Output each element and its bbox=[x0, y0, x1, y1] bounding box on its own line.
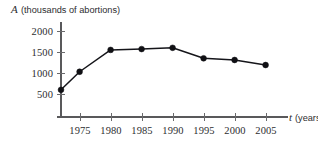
x-tick-label-2005: 2005 bbox=[255, 125, 276, 136]
data-series-markers bbox=[58, 45, 268, 93]
x-tick-label-1995: 1995 bbox=[193, 125, 214, 136]
data-point-1975 bbox=[77, 69, 83, 75]
y-axis-label-variable: A bbox=[10, 3, 18, 15]
data-point-2000 bbox=[232, 57, 238, 63]
y-tick-label-500: 500 bbox=[37, 89, 53, 100]
x-tick-label-2000: 2000 bbox=[224, 125, 245, 136]
data-series-line bbox=[61, 48, 266, 90]
data-point-1990 bbox=[170, 45, 176, 51]
x-axis-label-units: (years) bbox=[295, 113, 318, 123]
data-point-1980 bbox=[108, 47, 114, 53]
y-tick-label-1500: 1500 bbox=[32, 47, 53, 58]
data-point-1995 bbox=[201, 55, 207, 61]
x-axis-label-variable: t bbox=[289, 111, 293, 123]
y-axis-label-units: (thousands of abortions) bbox=[21, 5, 120, 15]
y-tick-label-1000: 1000 bbox=[32, 68, 53, 79]
x-tick-label-1980: 1980 bbox=[100, 125, 121, 136]
data-point-2005 bbox=[263, 62, 269, 68]
data-point-1972 bbox=[58, 87, 64, 93]
line-chart-plot: A (thousands of abortions) 2000 1500 100… bbox=[0, 0, 318, 148]
x-tick-label-1985: 1985 bbox=[131, 125, 152, 136]
chart-figure: A (thousands of abortions) 2000 1500 100… bbox=[0, 0, 318, 148]
x-tick-label-1975: 1975 bbox=[69, 125, 90, 136]
y-tick-label-2000: 2000 bbox=[32, 26, 53, 37]
x-tick-label-1990: 1990 bbox=[162, 125, 183, 136]
data-point-1985 bbox=[139, 46, 145, 52]
